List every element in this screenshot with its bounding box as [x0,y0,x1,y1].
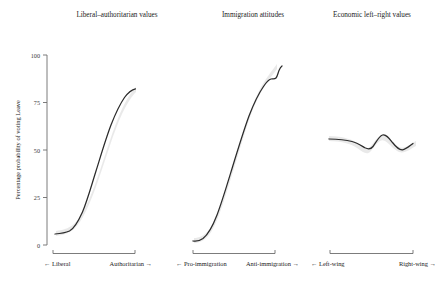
x-label-right-panel-1: Authoritarian → [110,260,152,267]
confidence-band-panel-2 [194,64,277,243]
x-label-right-panel-3: Right-wing → [399,260,436,267]
x-label-left-panel-3: ← Left-wing [311,260,345,267]
x-label-right-panel-2: Anti-immigration → [246,260,299,267]
y-tick-label-100: 100 [31,52,40,59]
chart-svg: 100 75 50 25 0 Percentage probability of… [0,0,439,286]
x-bracket-panel-1 [53,250,135,254]
y-tick-label-25: 25 [34,194,40,201]
panel-title-immigration-attitudes: Immigration attitudes [222,11,284,19]
confidence-band-panel-3 [329,135,416,153]
y-tick-label-75: 75 [34,99,40,106]
x-bracket-panel-2 [193,250,275,254]
x-label-left-panel-1: ← Liberal [44,260,71,267]
x-bracket-panel-3 [330,250,413,254]
panel-title-liberal-authoritarian: Liberal–authoritarian values [76,11,157,19]
confidence-band-panel-1 [56,87,136,236]
y-tick-label-50: 50 [34,147,40,154]
x-label-left-panel-2: ← Pro-immigration [176,260,227,267]
figure-container: 100 75 50 25 0 Percentage probability of… [0,0,439,286]
y-axis-title: Percentage probability of voting Leave [14,100,21,200]
y-tick-label-0: 0 [37,242,40,249]
panel-title-economic-left-right: Economic left–right values [333,11,411,19]
